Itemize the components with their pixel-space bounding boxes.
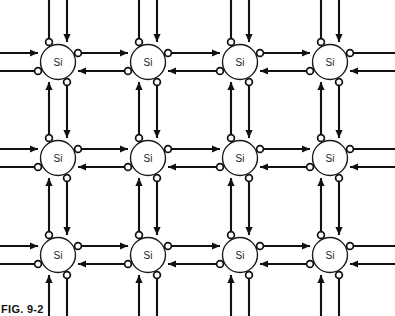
- edge-left-r0-lower-electron-dot: [35, 68, 42, 75]
- bond-h-r2-c1-lower-arrowhead: [168, 260, 176, 267]
- bond-v-c2-r0-left-arrowhead: [227, 82, 234, 90]
- bond-v-c0-r0-right-electron-dot: [64, 79, 71, 86]
- bond-v-c1-r1-right-arrowhead: [153, 227, 160, 235]
- edge-bottom-c1-left-arrowhead: [135, 275, 142, 283]
- bond-h-r1-c0-upper-arrowhead: [120, 145, 128, 152]
- bond-h-r2-c0-upper-electron-dot: [75, 243, 82, 250]
- edge-top-c2-right-arrowhead: [245, 34, 252, 42]
- bond-h-r0-c0-lower-electron-dot: [125, 68, 132, 75]
- atom-label-r1-c2: Si: [236, 153, 245, 164]
- silicon-lattice-diagram: SiSiSiSiSiSiSiSiSiSiSiSi: [0, 0, 395, 316]
- bond-v-c1-r1-left-electron-dot: [136, 232, 143, 239]
- bond-v-c1-r0-left-arrowhead: [135, 82, 142, 90]
- edge-bottom-c2-right-electron-dot: [246, 272, 253, 279]
- bond-h-r2-c1-upper-electron-dot: [165, 243, 172, 250]
- edge-top-c1-right-arrowhead: [153, 34, 160, 42]
- bond-v-c0-r0-left-electron-dot: [46, 135, 53, 142]
- bond-h-r0-c1-upper-electron-dot: [165, 50, 172, 57]
- bond-v-c0-r1-left-arrowhead: [45, 178, 52, 186]
- edge-top-c0-left-electron-dot: [46, 39, 53, 46]
- edge-right-r0-lower-arrowhead: [350, 67, 358, 74]
- bond-h-r1-c0-lower-arrowhead: [78, 163, 86, 170]
- atom-label-r0-c1: Si: [144, 57, 153, 68]
- atom-label-r2-c3: Si: [326, 250, 335, 261]
- bond-v-c1-r1-left-arrowhead: [135, 178, 142, 186]
- bond-h-r2-c1-upper-arrowhead: [212, 242, 220, 249]
- edge-right-r2-upper-electron-dot: [347, 243, 354, 250]
- bond-v-c2-r0-right-arrowhead: [245, 130, 252, 138]
- bond-h-r0-c1-lower-arrowhead: [168, 67, 176, 74]
- edge-bottom-c3-right-electron-dot: [336, 272, 343, 279]
- atom-label-r1-c0: Si: [54, 153, 63, 164]
- atom-label-r2-c0: Si: [54, 250, 63, 261]
- bond-h-r0-c2-lower-arrowhead: [260, 67, 268, 74]
- atom-label-r2-c2: Si: [236, 250, 245, 261]
- bond-h-r0-c1-lower-electron-dot: [217, 68, 224, 75]
- atom-label-r0-c0: Si: [54, 57, 63, 68]
- bond-h-r2-c2-upper-arrowhead: [302, 242, 310, 249]
- bond-v-c3-r0-left-arrowhead: [317, 82, 324, 90]
- bond-h-r1-c1-upper-arrowhead: [212, 145, 220, 152]
- bond-v-c3-r0-right-arrowhead: [335, 130, 342, 138]
- bond-v-c1-r0-left-electron-dot: [136, 135, 143, 142]
- bond-h-r2-c0-lower-arrowhead: [78, 260, 86, 267]
- bond-h-r1-c2-lower-electron-dot: [307, 164, 314, 171]
- bond-h-r1-c1-lower-electron-dot: [217, 164, 224, 171]
- bond-v-c1-r0-right-electron-dot: [154, 79, 161, 86]
- bond-h-r2-c2-lower-electron-dot: [307, 261, 314, 268]
- atom-label-r0-c3: Si: [326, 57, 335, 68]
- bond-v-c1-r1-right-electron-dot: [154, 175, 161, 182]
- bond-h-r1-c2-lower-arrowhead: [260, 163, 268, 170]
- bond-h-r0-c0-upper-electron-dot: [75, 50, 82, 57]
- edge-top-c3-right-arrowhead: [335, 34, 342, 42]
- bond-v-c0-r1-left-electron-dot: [46, 232, 53, 239]
- figure-container: SiSiSiSiSiSiSiSiSiSiSiSi FIG. 9-2: [0, 0, 395, 316]
- edge-left-r2-lower-electron-dot: [35, 261, 42, 268]
- edge-top-c1-left-electron-dot: [136, 39, 143, 46]
- bond-h-r1-c2-upper-electron-dot: [257, 146, 264, 153]
- figure-caption: FIG. 9-2: [1, 303, 44, 315]
- bond-v-c1-r0-right-arrowhead: [153, 130, 160, 138]
- bond-v-c3-r1-left-arrowhead: [317, 178, 324, 186]
- bond-v-c0-r1-right-electron-dot: [64, 175, 71, 182]
- bond-h-r2-c2-lower-arrowhead: [260, 260, 268, 267]
- bond-v-c3-r0-left-electron-dot: [318, 135, 325, 142]
- bond-h-r0-c2-upper-arrowhead: [302, 49, 310, 56]
- edge-top-c3-left-electron-dot: [318, 39, 325, 46]
- atom-label-r2-c1: Si: [144, 250, 153, 261]
- bond-h-r0-c1-upper-arrowhead: [212, 49, 220, 56]
- bond-h-r0-c0-upper-arrowhead: [120, 49, 128, 56]
- bond-v-c3-r1-right-electron-dot: [336, 175, 343, 182]
- bond-h-r1-c0-lower-electron-dot: [125, 164, 132, 171]
- bond-h-r1-c2-upper-arrowhead: [302, 145, 310, 152]
- bond-h-r0-c0-lower-arrowhead: [78, 67, 86, 74]
- edge-bottom-c0-left-arrowhead: [45, 275, 52, 283]
- bond-h-r2-c2-upper-electron-dot: [257, 243, 264, 250]
- bond-v-c2-r1-left-electron-dot: [228, 232, 235, 239]
- bond-v-c0-r0-right-arrowhead: [63, 130, 70, 138]
- edge-right-r1-lower-arrowhead: [350, 163, 358, 170]
- edge-top-c2-left-electron-dot: [228, 39, 235, 46]
- edge-left-r2-upper-arrowhead: [30, 242, 38, 249]
- atom-label-r0-c2: Si: [236, 57, 245, 68]
- bond-v-c2-r0-right-electron-dot: [246, 79, 253, 86]
- bond-h-r1-c0-upper-electron-dot: [75, 146, 82, 153]
- edge-bottom-c2-left-arrowhead: [227, 275, 234, 283]
- bond-h-r2-c0-upper-arrowhead: [120, 242, 128, 249]
- bond-h-r2-c1-lower-electron-dot: [217, 261, 224, 268]
- bond-v-c2-r1-right-arrowhead: [245, 227, 252, 235]
- atom-label-r1-c3: Si: [326, 153, 335, 164]
- bond-v-c3-r1-left-electron-dot: [318, 232, 325, 239]
- bond-v-c2-r0-left-electron-dot: [228, 135, 235, 142]
- bond-h-r1-c1-upper-electron-dot: [165, 146, 172, 153]
- bond-v-c2-r1-left-arrowhead: [227, 178, 234, 186]
- bond-h-r0-c2-lower-electron-dot: [307, 68, 314, 75]
- bond-v-c0-r1-right-arrowhead: [63, 227, 70, 235]
- edge-bottom-c0-right-electron-dot: [64, 272, 71, 279]
- bond-h-r2-c0-lower-electron-dot: [125, 261, 132, 268]
- edge-bottom-c1-right-electron-dot: [154, 272, 161, 279]
- edge-bottom-c3-left-arrowhead: [317, 275, 324, 283]
- bond-v-c2-r1-right-electron-dot: [246, 175, 253, 182]
- edge-right-r2-lower-arrowhead: [350, 260, 358, 267]
- edge-left-r0-upper-arrowhead: [30, 49, 38, 56]
